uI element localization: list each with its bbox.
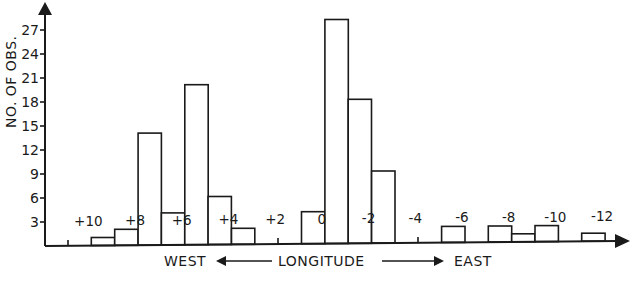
histogram-bar — [582, 233, 605, 241]
x-tick-label: +6 — [172, 212, 192, 228]
west-arrow-icon — [216, 256, 226, 266]
histogram-bar — [91, 238, 114, 246]
y-tick-label: 24 — [21, 46, 39, 62]
x-axis-east-label: EAST — [454, 253, 492, 269]
histogram-bar — [138, 133, 161, 245]
x-tick-label: -2 — [362, 210, 375, 226]
y-axis-ticks: 369121518212427 — [21, 22, 45, 230]
y-tick-label: 15 — [21, 118, 39, 134]
y-axis-arrow-icon — [38, 2, 52, 15]
histogram-bar — [325, 20, 348, 244]
x-tick-label: +4 — [218, 211, 238, 227]
x-axis-arrow-icon — [615, 234, 630, 248]
x-axis-west-label: WEST — [164, 253, 206, 269]
y-tick-label: 12 — [21, 142, 39, 158]
x-tick-label: +2 — [265, 211, 285, 227]
x-tick-label: +10 — [74, 213, 103, 229]
x-tick-label: +8 — [125, 212, 145, 228]
x-axis-title: LONGITUDE — [278, 253, 365, 269]
x-tick-label: -12 — [591, 208, 613, 224]
histogram-bar — [535, 226, 558, 242]
y-tick-label: 21 — [21, 70, 39, 86]
x-tick-label: -4 — [409, 210, 422, 226]
bars-group — [91, 20, 605, 246]
y-tick-label: 3 — [30, 214, 39, 230]
y-axis-title: NO. OF OBS. — [3, 35, 19, 128]
y-tick-label: 6 — [30, 190, 39, 206]
x-tick-label: 0 — [318, 211, 327, 227]
histogram-bar — [488, 226, 511, 242]
histogram-bar — [115, 229, 138, 245]
histogram-bar — [442, 226, 465, 242]
east-arrow-icon — [434, 256, 444, 266]
y-tick-label: 9 — [30, 166, 39, 182]
histogram-bar — [512, 234, 535, 242]
x-tick-label: -10 — [544, 209, 566, 225]
y-tick-label: 18 — [21, 94, 39, 110]
histogram-bar — [232, 228, 255, 244]
y-tick-label: 27 — [21, 22, 39, 38]
histogram-chart: 369121518212427 +10+8+6+4+20-2-4-6-8-10-… — [0, 0, 630, 283]
x-tick-label: -6 — [455, 209, 468, 225]
histogram-bar — [372, 171, 395, 243]
x-tick-label: -8 — [502, 209, 515, 225]
